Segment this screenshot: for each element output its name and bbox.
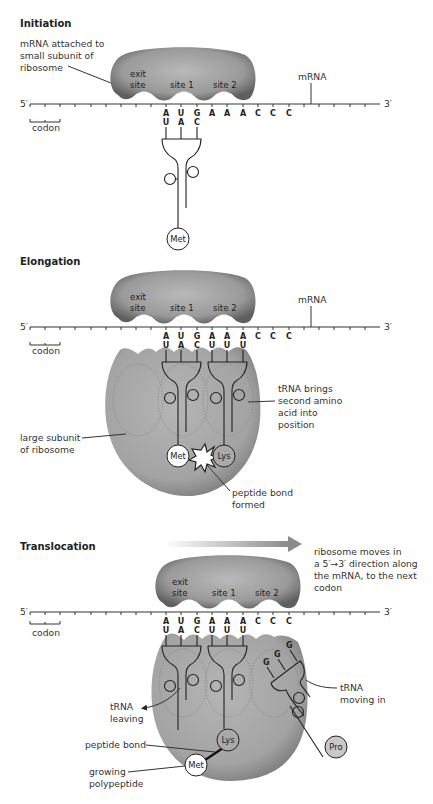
svg-text:C: C xyxy=(270,109,276,118)
trna-moving-in-label-2: moving in xyxy=(340,694,386,705)
anticodon: U A C xyxy=(163,118,200,127)
anticodon-g: G xyxy=(274,650,281,659)
direction-arrow xyxy=(165,536,302,552)
svg-text:A: A xyxy=(224,332,231,341)
panel-title: Elongation xyxy=(20,256,80,267)
site2-label: site 2 xyxy=(213,80,237,90)
exit-site-label: exit xyxy=(130,292,147,302)
growing-polypeptide-label-2: polypeptide xyxy=(89,778,144,789)
svg-text:A: A xyxy=(209,332,216,341)
svg-text:A: A xyxy=(209,617,216,626)
amino-acid-met-label: Met xyxy=(188,760,204,770)
svg-text:U: U xyxy=(240,341,247,350)
three-prime-label: 3′ xyxy=(384,321,392,332)
svg-text:C: C xyxy=(286,109,292,118)
svg-text:C: C xyxy=(194,341,200,350)
translation-diagram: Initiation mRNA attached to small subuni… xyxy=(0,0,433,804)
large-ribosome-subunit xyxy=(152,633,308,781)
amino-acid-lys-label: Lys xyxy=(217,451,230,461)
leader-line xyxy=(128,766,185,772)
five-prime-label: 5′ xyxy=(20,98,28,109)
svg-text:C: C xyxy=(270,332,276,341)
svg-text:U: U xyxy=(209,341,216,350)
svg-text:A: A xyxy=(240,617,247,626)
site2-label: site 2 xyxy=(255,588,279,598)
exit-site-label: exit xyxy=(172,577,189,587)
trna-leaving-label-1: tRNA xyxy=(110,701,134,712)
small-subunit-label-line2: small subunit of xyxy=(20,50,94,61)
amino-acid-lys-label: Lys xyxy=(221,735,234,745)
svg-text:A: A xyxy=(240,109,247,118)
svg-text:U: U xyxy=(163,626,170,635)
svg-text:U: U xyxy=(163,341,170,350)
svg-text:U: U xyxy=(209,626,216,635)
amino-acid-met-label: Met xyxy=(170,234,186,244)
svg-text:A: A xyxy=(224,617,231,626)
five-prime-label: 5′ xyxy=(20,606,28,617)
mrna-bases: A U G A A A C C C xyxy=(163,332,292,341)
mrna-bases: A U G A A A C C C xyxy=(163,617,292,626)
svg-text:C: C xyxy=(255,109,261,118)
large-ribosome-subunit xyxy=(105,347,260,496)
five-prime-label: 5′ xyxy=(20,321,28,332)
svg-text:C: C xyxy=(194,626,200,635)
svg-text:U: U xyxy=(178,617,185,626)
trna-leaving-label-2: leaving xyxy=(110,713,143,724)
moves-label-4: codon xyxy=(314,582,342,593)
moves-label-1: ribosome moves in xyxy=(314,546,402,557)
large-subunit-label-2: of ribosome xyxy=(20,444,75,455)
trna-loop xyxy=(188,167,199,178)
trna-moving-in-label-1: tRNA xyxy=(340,682,364,693)
svg-text:A: A xyxy=(209,109,216,118)
exit-site-label-2: site xyxy=(130,303,146,313)
site1-label: site 1 xyxy=(212,588,236,598)
trna-brings-label-4: position xyxy=(278,419,315,430)
leader-line xyxy=(306,680,337,688)
three-prime-label: 3′ xyxy=(384,606,392,617)
svg-text:A: A xyxy=(240,332,247,341)
svg-text:A: A xyxy=(163,109,170,118)
svg-text:U: U xyxy=(163,118,170,127)
trna-brings-label-3: acid into xyxy=(278,407,318,418)
panel-translocation: Translocation ribosome moves in a 5′→3′ … xyxy=(20,536,418,789)
panel-initiation: Initiation mRNA attached to small subuni… xyxy=(20,18,392,250)
panel-elongation: Elongation exit site site 1 site 2 5′ 3′… xyxy=(20,256,392,510)
svg-text:G: G xyxy=(194,109,201,118)
moves-label-2: a 5′→3′ direction along xyxy=(314,558,418,569)
svg-text:C: C xyxy=(255,617,261,626)
trna-brings-label-2: second amino xyxy=(278,395,343,406)
svg-text:U: U xyxy=(178,109,185,118)
svg-text:A: A xyxy=(163,617,170,626)
amino-acid-pro-label: Pro xyxy=(329,742,342,752)
small-subunit-label-line3: ribosome xyxy=(20,62,63,73)
svg-text:A: A xyxy=(224,109,231,118)
trna-met xyxy=(162,127,201,232)
anticodons: U A C U U U xyxy=(163,626,247,635)
mrna-label: mRNA xyxy=(298,294,327,305)
growing-polypeptide-label-1: growing xyxy=(89,766,126,777)
svg-text:U: U xyxy=(224,626,231,635)
svg-text:A: A xyxy=(178,118,185,127)
codon-label: codon xyxy=(32,122,60,133)
anticodon-g: G xyxy=(263,658,270,667)
codon-label: codon xyxy=(32,627,60,638)
svg-text:C: C xyxy=(270,617,276,626)
small-subunit-label-line1: mRNA attached to xyxy=(20,38,105,49)
mrna-label: mRNA xyxy=(298,71,327,82)
svg-text:A: A xyxy=(163,332,170,341)
panel-title: Initiation xyxy=(20,18,71,29)
trna-brings-label-1: tRNA brings xyxy=(278,383,333,394)
amino-acid-met-label: Met xyxy=(170,451,186,461)
leader-line xyxy=(68,66,116,85)
svg-text:C: C xyxy=(286,332,292,341)
svg-text:U: U xyxy=(240,626,247,635)
svg-text:U: U xyxy=(224,341,231,350)
svg-text:C: C xyxy=(255,332,261,341)
peptide-bond-formed-label-2: formed xyxy=(232,499,265,510)
large-subunit-label-1: large subunit xyxy=(20,432,81,443)
exit-site-label-2: site xyxy=(130,80,146,90)
codon-label: codon xyxy=(32,345,60,356)
mrna-bases: A U G A A A C C C xyxy=(163,109,292,118)
svg-text:G: G xyxy=(194,332,201,341)
peptide-bond-formed-label-1: peptide bond xyxy=(232,487,293,498)
